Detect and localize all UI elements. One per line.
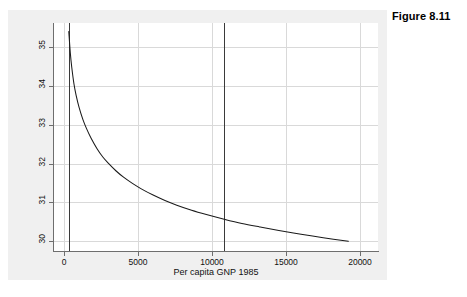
x-tick-label: 0 bbox=[62, 257, 67, 267]
figure-panel: 05000100001500020000 303132333435 Per ca… bbox=[8, 10, 387, 280]
y-tick-label: 33 bbox=[37, 118, 47, 127]
y-tick-mark bbox=[49, 86, 53, 87]
x-axis-title: Per capita GNP 1985 bbox=[54, 267, 378, 277]
x-tick-label: 15000 bbox=[274, 257, 298, 267]
x-tick-label: 20000 bbox=[348, 257, 372, 267]
x-tick-mark bbox=[286, 252, 287, 256]
y-tick-label: 35 bbox=[37, 40, 47, 49]
y-axis-title: birth = f(gnpcap | srmort = 2.49) bbox=[0, 131, 119, 257]
y-tick-mark bbox=[49, 125, 53, 126]
x-tick-label: 10000 bbox=[200, 257, 224, 267]
x-tick-mark bbox=[138, 252, 139, 256]
figure-caption: Figure 8.11 bbox=[392, 10, 451, 22]
x-tick-mark bbox=[212, 252, 213, 256]
x-tick-label: 5000 bbox=[129, 257, 148, 267]
y-tick-label: 34 bbox=[37, 79, 47, 88]
y-tick-mark bbox=[49, 47, 53, 48]
x-tick-mark bbox=[360, 252, 361, 256]
